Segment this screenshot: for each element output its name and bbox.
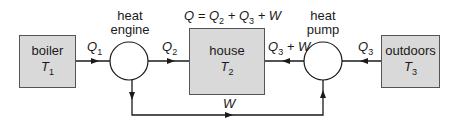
outdoors-node: outdoors T3 [381, 35, 440, 88]
outdoors-label: outdoors [385, 43, 436, 59]
arrowhead-q3-icon [360, 58, 368, 64]
flow-label-q3-plus-w: Q3 + W [268, 40, 310, 59]
flow-label-q3: Q3 [358, 40, 373, 59]
house-label: house [209, 43, 244, 59]
flow-label-q2: Q2 [162, 40, 177, 59]
arrowhead-w-up-icon [320, 90, 326, 98]
arrowhead-q1-icon [91, 58, 99, 64]
house-temp: T2 [221, 59, 234, 80]
heat-pump-label: heat pump [303, 9, 343, 37]
arrowhead-w-down-icon [129, 92, 135, 100]
boiler-label: boiler [32, 43, 64, 59]
heat-engine-label: heat engine [109, 9, 151, 37]
arrowhead-q3w-icon [282, 58, 290, 64]
outdoors-temp: T3 [404, 59, 417, 80]
arrowhead-q2-icon [167, 58, 175, 64]
heat-engine-circle [110, 42, 148, 80]
flow-label-q1: Q1 [87, 40, 102, 59]
flow-label-w: W [223, 97, 235, 111]
house-node: house T2 [189, 28, 265, 95]
boiler-temp: T1 [41, 59, 54, 80]
arrowhead-w-right-icon [225, 112, 233, 118]
house-equation: Q = Q2 + Q3 + W [184, 9, 272, 28]
boiler-node: boiler T1 [19, 35, 76, 88]
